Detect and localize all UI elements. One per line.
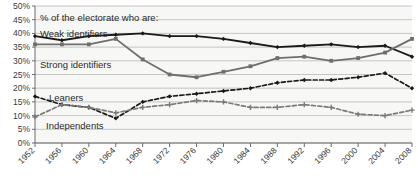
data-point-marker [114,37,118,41]
y-axis-tick-label: 20% [13,83,30,93]
data-point-marker [302,55,306,59]
data-point-marker [222,70,226,74]
data-point-marker [275,56,279,60]
x-axis-tick-label: 1952 [16,145,37,166]
data-point-marker [33,42,37,46]
x-axis-tick-label: 2004 [366,145,387,166]
x-axis-tick-label: 1984 [231,145,252,166]
y-axis-tick-label: 35% [13,42,30,52]
annotation-leaners: Leaners [49,92,84,103]
x-axis-tick-label: 1956 [43,145,64,166]
y-axis-tick-label: 25% [13,70,30,80]
x-axis-tick-label: 2008 [393,145,414,166]
data-point-marker [195,75,199,79]
x-axis: 1952195619601964196819721976198019841988… [16,143,414,166]
data-point-marker [168,73,172,77]
data-point-marker [356,56,360,60]
y-axis-tick-label: 40% [13,28,30,38]
y-axis-tick-label: 5% [18,124,31,134]
x-axis-tick-label: 2000 [339,145,360,166]
x-axis-tick-label: 1980 [204,145,225,166]
annotation-independents: Independents [46,120,104,131]
annotation-strong-identifiers: Strong identifiers [40,59,112,70]
y-axis-tick-label: 15% [13,97,30,107]
x-axis-tick-label: 1960 [70,145,91,166]
data-point-marker [329,59,333,63]
x-axis-tick-label: 1976 [178,145,199,166]
x-axis-tick-label: 1996 [312,145,333,166]
annotation-weak-identifiers: Weak identifiers [40,28,108,39]
data-point-marker [87,42,91,46]
x-axis-tick-label: 1972 [151,145,172,166]
data-point-marker [383,51,387,55]
y-axis-tick-label: 10% [13,111,30,121]
data-point-marker [410,37,414,41]
x-axis-tick-label: 1968 [124,145,145,166]
annotation-header: % of the electorate who are: [40,12,158,23]
x-axis-tick-label: 1988 [258,145,279,166]
chart-container: 0%5%10%15%20%25%30%35%40%45%50% 19521956… [0,0,418,186]
y-axis-tick-label: 45% [13,15,30,25]
data-point-marker [141,58,145,62]
x-axis-tick-label: 1964 [97,145,118,166]
line-chart: 0%5%10%15%20%25%30%35%40%45%50% 19521956… [0,0,418,186]
data-point-marker [249,64,253,68]
data-point-marker [60,42,64,46]
x-axis-tick-label: 1992 [285,145,306,166]
y-axis: 0%5%10%15%20%25%30%35%40%45%50% [13,1,35,148]
y-axis-tick-label: 30% [13,56,30,66]
y-axis-tick-label: 50% [13,1,30,11]
